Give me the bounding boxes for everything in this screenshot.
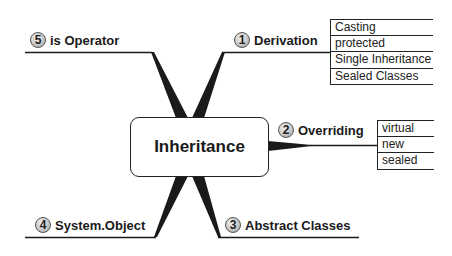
branch-3-node[interactable]: 3 Abstract Classes [225,217,351,233]
child-protected[interactable]: protected [331,36,433,53]
branch-5-label: is Operator [50,33,119,48]
branch-2-connector [268,141,378,151]
branch-2-children: virtual new sealed [377,120,434,170]
child-single-inheritance[interactable]: Single Inheritance [331,52,433,69]
branch-1-node[interactable]: 1 Derivation [234,32,318,48]
branch-5-node[interactable]: 5 is Operator [30,32,119,48]
central-node[interactable]: Inheritance [130,117,269,177]
branch-3-label: Abstract Classes [245,218,351,233]
number-1-badge-icon: 1 [234,32,250,48]
number-2-badge-icon: 2 [278,122,294,138]
central-node-label: Inheritance [154,137,245,157]
number-4-badge-icon: 4 [35,217,51,233]
branch-4-node[interactable]: 4 System.Object [35,217,145,233]
branch-2-label: Overriding [298,123,364,138]
child-virtual[interactable]: virtual [378,120,434,137]
child-sealed[interactable]: sealed [378,153,434,170]
branch-1-children: Casting protected Single Inheritance Sea… [330,19,433,85]
child-sealed-classes[interactable]: Sealed Classes [331,69,433,86]
branch-1-label: Derivation [254,33,318,48]
number-5-badge-icon: 5 [30,32,46,48]
branch-4-label: System.Object [55,218,145,233]
number-3-badge-icon: 3 [225,217,241,233]
branch-5-connector [25,52,188,118]
child-new[interactable]: new [378,137,434,154]
branch-2-node[interactable]: 2 Overriding [278,122,364,138]
branch-1-connector [192,52,331,118]
child-casting[interactable]: Casting [331,19,433,36]
